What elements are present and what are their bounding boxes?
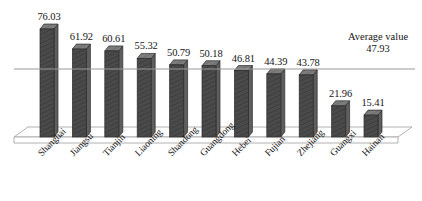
- bar-value-label: 50.18: [194, 48, 228, 59]
- bar: [105, 46, 123, 137]
- bar-value-label: 60.61: [97, 33, 131, 44]
- bar-value-label: 46.81: [226, 53, 260, 64]
- average-value-annotation: Average value 47.93: [338, 31, 418, 55]
- bar-value-label: 44.39: [259, 56, 293, 67]
- bar-value-label: 55.32: [129, 40, 163, 51]
- bar-value-label: 21.96: [324, 88, 358, 99]
- bar-value-label: 43.78: [291, 57, 325, 68]
- bar: [72, 44, 90, 137]
- plot-area: 76.0361.9260.6155.3250.7950.1846.8144.39…: [0, 0, 422, 201]
- bar: [299, 70, 317, 137]
- bar: [40, 24, 58, 137]
- average-value-number: 47.93: [338, 43, 418, 55]
- bar-value-label: 76.03: [32, 11, 66, 22]
- bar-value-label: 61.92: [64, 31, 98, 42]
- bar-value-label: 15.41: [356, 97, 390, 108]
- bar: [202, 61, 220, 137]
- bar-chart: 76.0361.9260.6155.3250.7950.1846.8144.39…: [0, 0, 422, 201]
- bar: [170, 60, 188, 137]
- average-value-title: Average value: [348, 31, 408, 42]
- bar: [137, 53, 155, 137]
- bar: [234, 66, 252, 137]
- bar-value-label: 50.79: [162, 47, 196, 58]
- bar: [267, 69, 285, 137]
